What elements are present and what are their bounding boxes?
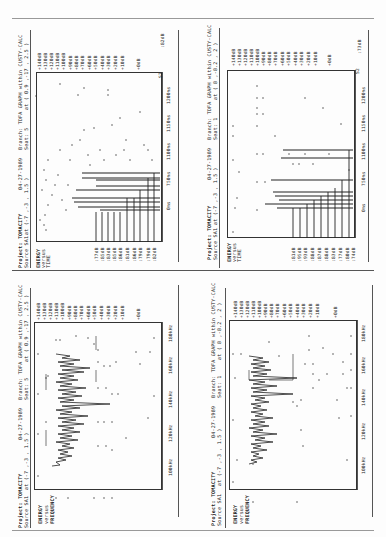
corner-value: :73dB — [357, 39, 362, 54]
x-axis-line — [357, 320, 358, 490]
x-axis-line — [162, 322, 163, 490]
x-tick: 1150ms — [361, 115, 366, 132]
x-tick: 750ms — [361, 171, 366, 186]
corner-label: S2 — [158, 72, 163, 78]
source-value: :82dB — [152, 247, 157, 262]
x-tick: 160kHz — [168, 357, 173, 374]
x-tick: 1200ms — [361, 87, 366, 104]
x-tick: 120kHz — [168, 425, 173, 442]
corner-label: S2 — [355, 68, 360, 74]
x-tick: 180kHz — [168, 325, 173, 342]
panel-energy-time-seat1: Project: TOMACITY Source SA1 04-27-1989 … — [193, 0, 386, 270]
x-tick: 140kHz — [361, 389, 366, 406]
source-value: :86dB — [118, 247, 123, 262]
x-tick: 750ms — [166, 171, 171, 186]
source-value: :87dB — [317, 247, 322, 262]
x-tick: 120kHz — [361, 423, 366, 440]
panel-energy-frequency-seat5: Project: TOMACITY Source SA1 04-27-1989 … — [0, 270, 193, 537]
x-axis-line — [162, 72, 163, 242]
x-tick: 0ms — [166, 201, 171, 210]
spectrum-trace — [0, 270, 193, 537]
source-value: :93dB — [303, 247, 308, 262]
source-value: :83dB — [106, 247, 111, 262]
source-value: :80dB — [345, 247, 350, 262]
x-tick: 1200ms — [166, 87, 171, 104]
source-value: :77dB — [338, 247, 343, 262]
x-tick: 0ms — [361, 203, 366, 212]
panel-energy-frequency-seat1: Project: TOMACITY Source SA1 04-27-1989 … — [193, 270, 386, 537]
source-value: :86dB — [132, 247, 137, 262]
source-value: :79dB — [146, 247, 151, 262]
panel-energy-time-seat5: Project: TOMACITY Source SA1 04-27-1989 … — [0, 0, 193, 270]
source-value: :95dB — [297, 247, 302, 262]
x-tick: 160kHz — [361, 357, 366, 374]
x-tick: 1100ms — [361, 143, 366, 160]
x-tick: 180kHz — [361, 325, 366, 342]
source-value: :81dB — [291, 247, 296, 262]
source-value: :85dB — [112, 247, 117, 262]
x-tick: 100kHz — [361, 457, 366, 474]
x-tick: 140kHz — [168, 391, 173, 408]
x-tick: 1150ms — [166, 115, 171, 132]
x-tick: 100kHz — [168, 459, 173, 476]
corner-value: :82dB — [160, 33, 165, 48]
source-value: :81dB — [125, 247, 130, 262]
x-axis-line — [355, 70, 356, 238]
x-tick: 1100ms — [166, 143, 171, 160]
source-value: :77dB — [94, 247, 99, 262]
source-value: :85dB — [100, 247, 105, 262]
source-value: :88dB — [310, 247, 315, 262]
source-value: :83dB — [331, 247, 336, 262]
source-value: :88dB — [324, 247, 329, 262]
source-value: :79dB — [138, 247, 143, 262]
source-value: :74dB — [351, 247, 356, 262]
document-page: Project: TOMACITY Source SA1 04-27-1989 … — [0, 0, 386, 537]
